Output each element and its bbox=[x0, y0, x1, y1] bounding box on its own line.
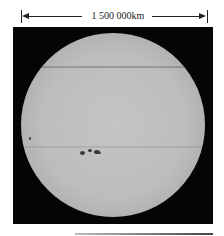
bottom-rule bbox=[75, 233, 213, 235]
scan-line-artifact bbox=[21, 66, 205, 68]
sunspot bbox=[88, 149, 92, 152]
scan-line-artifact bbox=[21, 146, 205, 148]
solar-disk bbox=[21, 33, 205, 217]
solar-image-frame bbox=[13, 27, 213, 224]
scale-label: 1 500 000km bbox=[88, 10, 148, 22]
scale-tick-right bbox=[207, 10, 208, 23]
sunspot bbox=[80, 151, 85, 155]
scale-line-right bbox=[152, 16, 200, 17]
sunspot bbox=[98, 152, 101, 154]
scale-bar: 1 500 000km bbox=[0, 0, 224, 27]
scale-line-left bbox=[28, 16, 82, 17]
sunspot bbox=[29, 137, 31, 140]
arrow-right-icon bbox=[199, 13, 206, 19]
